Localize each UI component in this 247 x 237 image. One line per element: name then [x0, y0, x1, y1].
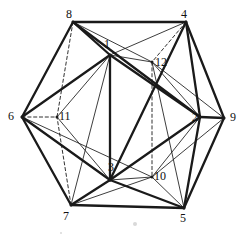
- graph-vertex-12: [151, 61, 154, 64]
- vertex-label-2: 2: [192, 111, 198, 123]
- vertex-label-3: 3: [108, 161, 114, 173]
- vertex-label-5: 5: [180, 212, 186, 224]
- graph-edge: [22, 117, 152, 177]
- graph-vertex-1: [109, 54, 112, 57]
- vertex-label-1: 1: [104, 38, 110, 50]
- vertex-label-6: 6: [8, 110, 14, 122]
- vertex-label-10: 10: [154, 170, 166, 182]
- graph-vertex-6: [21, 116, 24, 119]
- vertex-label-11: 11: [59, 110, 71, 122]
- graph-edge: [73, 22, 200, 117]
- icosahedron-graph-svg: [0, 0, 247, 237]
- graph-vertex-5: [183, 207, 186, 210]
- graph-edge: [22, 117, 110, 180]
- scan-artifact-speck: [60, 232, 62, 234]
- diagram-canvas: 123456789101112: [0, 0, 247, 237]
- graph-edge: [184, 117, 200, 208]
- graph-vertex-2: [199, 116, 202, 119]
- graph-edge: [110, 22, 186, 55]
- vertex-label-9: 9: [230, 111, 236, 123]
- vertex-label-8: 8: [66, 8, 72, 20]
- graph-edge: [22, 117, 71, 205]
- graph-edge: [71, 205, 184, 208]
- graph-edge: [110, 180, 184, 208]
- vertex-label-12: 12: [155, 56, 167, 68]
- graph-vertex-9: [223, 117, 226, 120]
- graph-edge: [110, 22, 186, 180]
- graph-edge: [152, 117, 200, 177]
- graph-vertex-7: [70, 204, 73, 207]
- graph-edge: [184, 118, 224, 208]
- graph-vertex-3: [109, 179, 112, 182]
- graph-edge: [152, 62, 184, 208]
- graph-edge: [200, 117, 224, 118]
- scan-artifact-speck: [133, 222, 137, 226]
- vertex-label-4: 4: [181, 8, 187, 20]
- vertex-label-7: 7: [63, 210, 69, 222]
